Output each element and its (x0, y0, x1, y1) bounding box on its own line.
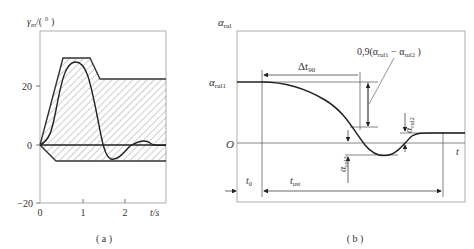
x-tick-0: 0 (38, 207, 43, 218)
delta-t90-label: Δt90 (298, 60, 316, 74)
rul3-label: αrul3 (337, 156, 349, 172)
x-tick-2: 2 (123, 207, 128, 218)
panel-b-frame (237, 31, 465, 202)
caption-a: ( a ) (96, 233, 112, 245)
origin-label: O (226, 138, 234, 150)
y-tick-0: 0 (27, 140, 32, 151)
caption-b: ( b ) (347, 233, 364, 245)
figure-canvas: 20 0 −20 0 1 2 t/s γm/( ° ) ( a ) (0, 0, 474, 249)
t0-label: t0 (246, 175, 252, 187)
t-axis-label: t (456, 146, 459, 157)
panel-a: 20 0 −20 0 1 2 t/s γm/( ° ) ( a ) (17, 16, 166, 245)
x-tick-1: 1 (81, 207, 86, 218)
ninety-percent-annotation: 0,9(αrul1 − αrul2 ) (357, 46, 421, 58)
y-axis-label: αrul (218, 16, 232, 30)
tust-label: tust (290, 175, 301, 187)
panel-b: αrul αrul1 O t Δt90 0,9(αrul1 − αrul2 ) … (209, 16, 465, 245)
alpha-rul-curve (237, 82, 465, 155)
level1-label: αrul1 (209, 76, 227, 90)
annotation-leader (369, 58, 394, 104)
x-axis-label: t/s (150, 207, 160, 218)
y-tick-20: 20 (22, 81, 32, 92)
y-axis-label: γm/( ° ) (27, 16, 54, 29)
y-tick-neg20: −20 (17, 198, 33, 209)
